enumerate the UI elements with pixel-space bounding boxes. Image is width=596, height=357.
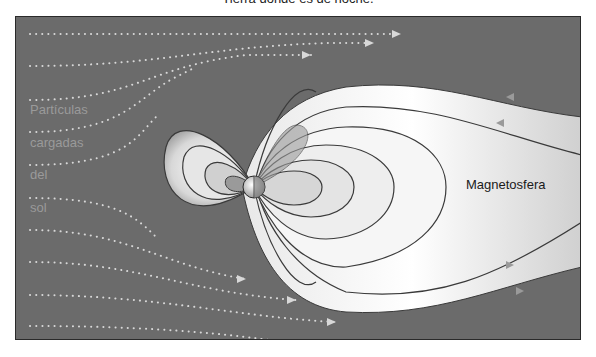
arrow-right-icon xyxy=(237,275,246,283)
earth-globe-icon xyxy=(243,176,265,198)
label-cargadas: cargadas xyxy=(30,135,83,150)
label-particulas: Partículas xyxy=(30,102,88,117)
arrow-right-icon xyxy=(516,287,524,295)
arrow-right-icon xyxy=(302,51,311,59)
caption: Tierra donde es de noche. xyxy=(0,0,596,6)
magnetotail xyxy=(242,85,581,313)
arrow-left-icon xyxy=(506,93,514,101)
arrow-right-icon xyxy=(392,30,401,38)
magnetosphere-diagram: Partículas cargadas del sol Magnetosfera xyxy=(15,16,581,340)
arrow-right-icon xyxy=(287,296,296,304)
label-magnetosfera: Magnetosfera xyxy=(466,177,546,192)
arrow-right-icon xyxy=(365,39,374,47)
label-sol: sol xyxy=(30,200,47,215)
label-del: del xyxy=(30,167,47,182)
arrow-right-icon xyxy=(327,318,336,326)
